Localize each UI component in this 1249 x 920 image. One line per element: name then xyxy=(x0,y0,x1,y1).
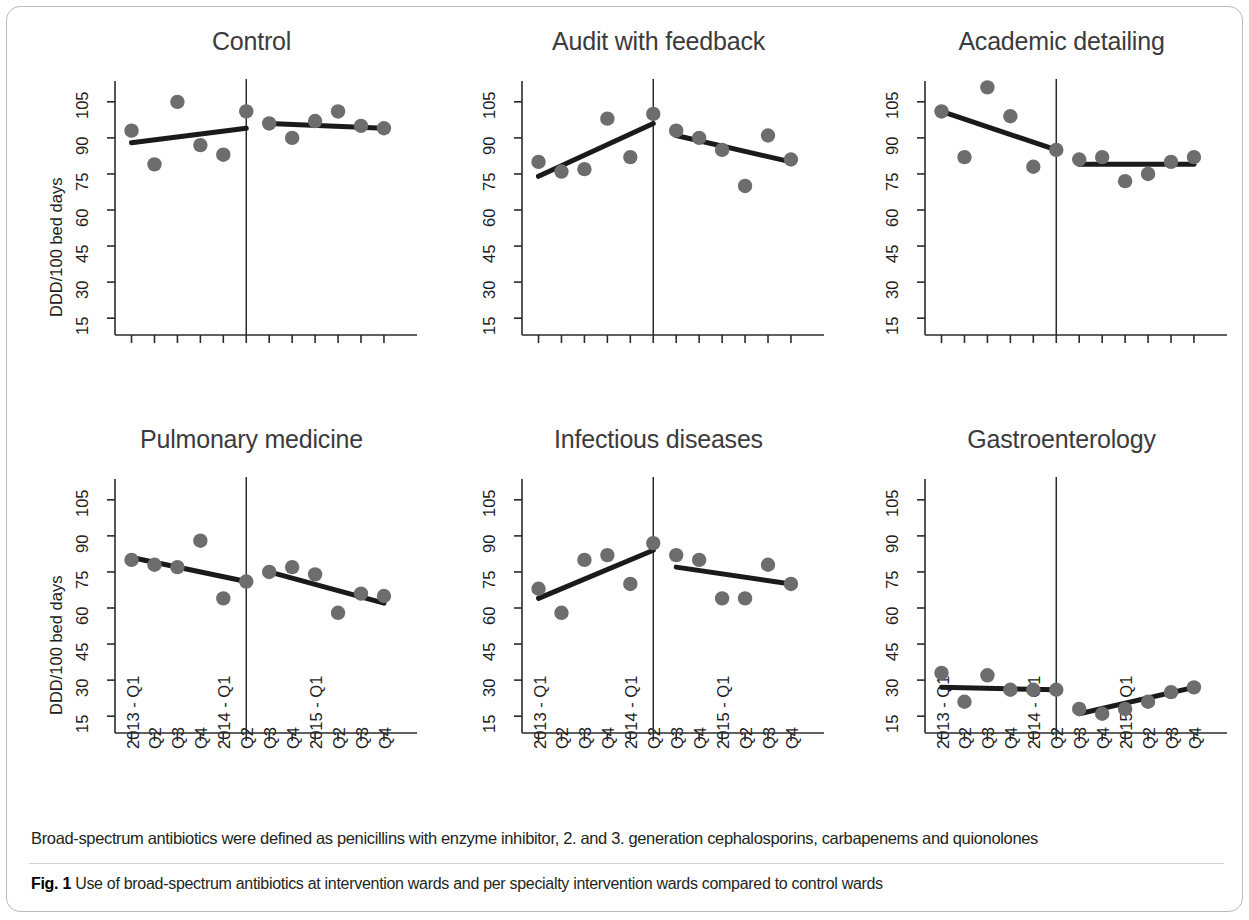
data-point xyxy=(957,695,971,709)
data-point xyxy=(554,606,568,620)
data-point xyxy=(980,80,994,94)
data-point xyxy=(124,123,138,137)
data-point xyxy=(761,128,775,142)
figure-note: Broad-spectrum antibiotics were defined … xyxy=(31,829,1231,848)
data-point xyxy=(934,104,948,118)
data-point xyxy=(738,591,752,605)
data-point xyxy=(980,668,994,682)
data-point xyxy=(216,148,230,162)
data-point xyxy=(784,577,798,591)
data-point xyxy=(1164,685,1178,699)
regression-line xyxy=(132,128,247,142)
data-point xyxy=(934,666,948,680)
data-point xyxy=(285,560,299,574)
data-point xyxy=(669,548,683,562)
data-point xyxy=(170,560,184,574)
data-point xyxy=(308,114,322,128)
data-point xyxy=(1049,143,1063,157)
plot-area xyxy=(25,425,420,815)
data-point xyxy=(1026,683,1040,697)
figure-label: Fig. 1 xyxy=(31,875,71,892)
data-point xyxy=(531,155,545,169)
data-point xyxy=(1072,152,1086,166)
data-point xyxy=(331,104,345,118)
data-point xyxy=(193,138,207,152)
data-point xyxy=(1187,680,1201,694)
data-point xyxy=(262,116,276,130)
data-point xyxy=(147,558,161,572)
plot-area xyxy=(432,425,827,815)
data-point xyxy=(193,533,207,547)
data-point xyxy=(331,606,345,620)
figure-caption: Fig. 1 Use of broad-spectrum antibiotics… xyxy=(31,875,1231,893)
data-point xyxy=(1003,683,1017,697)
data-point xyxy=(1187,150,1201,164)
data-point xyxy=(957,150,971,164)
data-point xyxy=(1072,702,1086,716)
figure-card: ControlDDD/100 bed days153045607590105Au… xyxy=(6,6,1243,912)
data-point xyxy=(170,95,184,109)
data-point xyxy=(554,164,568,178)
data-point xyxy=(147,157,161,171)
data-point xyxy=(1003,109,1017,123)
data-point xyxy=(623,150,637,164)
data-point xyxy=(1049,683,1063,697)
data-point xyxy=(531,582,545,596)
data-point xyxy=(715,591,729,605)
data-point xyxy=(1164,155,1178,169)
data-point xyxy=(646,536,660,550)
data-point xyxy=(1095,707,1109,721)
data-point xyxy=(577,553,591,567)
data-point xyxy=(354,586,368,600)
data-point xyxy=(1118,174,1132,188)
data-point xyxy=(124,553,138,567)
data-point xyxy=(600,548,614,562)
data-point xyxy=(239,574,253,588)
caption-divider xyxy=(29,863,1224,864)
data-point xyxy=(1118,702,1132,716)
data-point xyxy=(377,589,391,603)
regression-line xyxy=(676,567,791,584)
figure-caption-text: Use of broad-spectrum antibiotics at int… xyxy=(75,875,883,892)
data-point xyxy=(239,104,253,118)
data-point xyxy=(600,111,614,125)
data-point xyxy=(308,567,322,581)
data-point xyxy=(692,553,706,567)
data-point xyxy=(216,591,230,605)
data-point xyxy=(669,123,683,137)
data-point xyxy=(715,143,729,157)
data-point xyxy=(646,107,660,121)
plot-area xyxy=(835,425,1230,815)
data-point xyxy=(377,121,391,135)
panel-control: ControlDDD/100 bed days153045607590105 xyxy=(25,27,420,417)
regression-line xyxy=(269,572,384,603)
data-point xyxy=(285,131,299,145)
panel-academic-detailing: Academic detailing153045607590105 xyxy=(835,27,1230,417)
plot-area xyxy=(25,27,420,417)
data-point xyxy=(1141,695,1155,709)
plot-area xyxy=(835,27,1230,417)
plot-area xyxy=(432,27,827,417)
figure-caption-zone: Broad-spectrum antibiotics were defined … xyxy=(7,825,1244,913)
panel-audit-with-feedback: Audit with feedback153045607590105 xyxy=(432,27,827,417)
data-point xyxy=(1141,167,1155,181)
panels-grid: ControlDDD/100 bed days153045607590105Au… xyxy=(7,7,1244,827)
data-point xyxy=(692,131,706,145)
data-point xyxy=(1095,150,1109,164)
panel-infectious-diseases: Infectious diseases1530456075901052013 -… xyxy=(432,425,827,815)
data-point xyxy=(262,565,276,579)
regression-line xyxy=(539,550,654,598)
data-point xyxy=(1026,160,1040,174)
data-point xyxy=(738,179,752,193)
data-point xyxy=(784,152,798,166)
data-point xyxy=(577,162,591,176)
panel-gastroenterology: Gastroenterology1530456075901052013 - Q1… xyxy=(835,425,1230,815)
data-point xyxy=(623,577,637,591)
data-point xyxy=(354,119,368,133)
panel-pulmonary-medicine: Pulmonary medicineDDD/100 bed days153045… xyxy=(25,425,420,815)
regression-line xyxy=(942,111,1057,149)
data-point xyxy=(761,558,775,572)
